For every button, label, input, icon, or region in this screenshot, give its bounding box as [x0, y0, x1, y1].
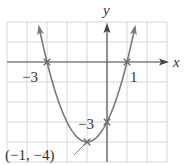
parabola-graph: y x −3 1 −3 (−1, −4): [0, 0, 187, 165]
vertex-leader-line: [74, 145, 84, 155]
x-intercept-left-label: −3: [22, 69, 38, 85]
grid: [7, 22, 167, 162]
vertex-label: (−1, −4): [5, 147, 54, 164]
y-axis-label: y: [101, 2, 110, 18]
y-intercept-label: −3: [78, 116, 94, 132]
x-intercept-right-label: 1: [130, 69, 138, 85]
x-axis-label: x: [172, 54, 180, 70]
